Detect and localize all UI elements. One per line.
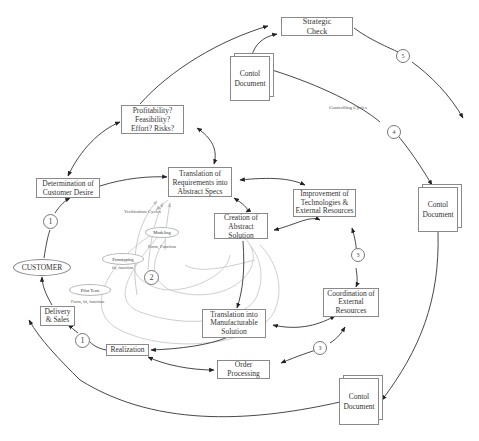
cycle-marker-4: 4 [387, 125, 401, 139]
cycle-marker-2: 2 [144, 270, 159, 285]
controlling-cycles-label: Controlling Cycles [329, 105, 367, 110]
cycle-marker-1-lower: 1 [75, 333, 90, 348]
delivery-sales-box: Delivery & Sales [40, 306, 75, 326]
translation-manufacturable-box: Translation into Manufacturable Solution [202, 309, 266, 338]
prototyping-ellipse: Prototyping [102, 253, 144, 265]
modeling-note: Form, Function [148, 244, 176, 249]
document-page-front: Contol Document [418, 187, 458, 232]
control-document-right-label: Contol Document [419, 188, 457, 231]
verification-cycles-label: Verification Cycles [124, 209, 161, 214]
cycle-marker-3-upper: 3 [351, 248, 365, 262]
control-document-right: Contol Document [418, 184, 462, 232]
translation-requirements-box: Translation of Requirements into Abstrac… [168, 167, 232, 197]
determination-customer-desire-box: Determination of Customer Desire [36, 178, 100, 198]
modeling-ellipse: Modeling [145, 227, 179, 238]
order-processing-box: Order Processing [217, 360, 270, 379]
customer-ellipse: CUSTOMER [13, 259, 71, 276]
document-page-front: Contol Document [230, 56, 270, 101]
pilot-tests-ellipse: Pilot Tests [69, 284, 111, 296]
improvement-technologies-box: Improvement of Technologies & External R… [293, 189, 356, 217]
realization-box: Realization [106, 344, 149, 356]
creation-abstract-solution-box: Creation of Abstract Solution [214, 213, 268, 239]
prototyping-note: fit, function [112, 265, 133, 270]
control-document-bottom: Contol Document [339, 375, 383, 425]
coordination-external-box: Coordination of External Resources [323, 288, 379, 317]
control-document-bottom-label: Contol Document [340, 379, 378, 424]
cycle-marker-1-upper: 1 [43, 214, 58, 229]
cycle-marker-3-lower: 3 [313, 341, 327, 355]
profitability-box: Profitability? Feasibility? Effort? Risk… [121, 105, 184, 134]
strategic-check-box: Strategic Check [281, 17, 353, 36]
cycle-marker-5: 5 [396, 49, 410, 63]
control-document-top-label: Contol Document [231, 57, 269, 100]
document-page-front: Contol Document [339, 378, 379, 425]
pilot-tests-note: Form, fit, function [71, 299, 104, 304]
control-document-top: Contol Document [230, 53, 274, 101]
